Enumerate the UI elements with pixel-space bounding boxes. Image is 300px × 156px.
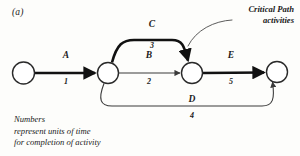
critical-path-callout: Critical Pathactivities: [248, 4, 294, 25]
activity-duration-D: 4: [190, 111, 194, 121]
activity-duration-B: 2: [147, 77, 151, 87]
callout-leader-line: [188, 20, 232, 46]
activity-edge-E: [203, 73, 264, 74]
event-node-3: [182, 63, 203, 84]
activity-label-E: E: [228, 50, 234, 62]
activity-label-B: B: [146, 50, 152, 62]
activity-duration-A: 1: [64, 77, 68, 87]
critical-path-callout-line1: Critical Path: [248, 4, 294, 14]
event-node-4: [267, 62, 288, 83]
event-node-1: [13, 62, 35, 84]
units-note: Numbersrepresent units of timefor comple…: [14, 114, 101, 149]
units-note-line1: Numbers: [14, 114, 45, 124]
activity-label-C: C: [149, 19, 155, 31]
event-node-2: [98, 63, 119, 84]
activity-label-A: A: [63, 50, 69, 62]
activity-duration-E: 5: [229, 77, 233, 87]
panel-tag: (a): [12, 7, 24, 19]
units-note-line2: represent units of time: [14, 126, 90, 136]
critical-path-callout-line2: activities: [263, 15, 294, 25]
network-diagram-figure: (a) A 1 C 3 B 2 E 5 D 4 Critical Pathact…: [0, 0, 300, 156]
activity-edge-D: [101, 82, 274, 106]
activity-label-D: D: [189, 94, 196, 106]
units-note-line3: for completion of activity: [14, 137, 101, 147]
